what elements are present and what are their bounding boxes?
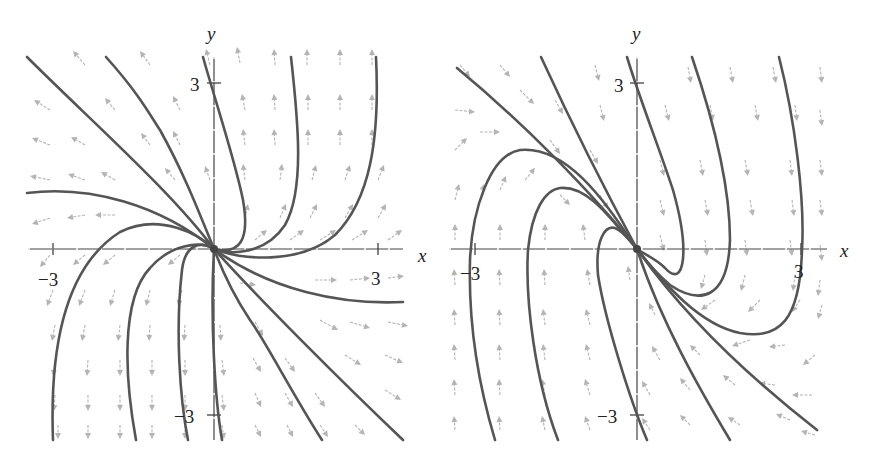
- vector-arrow: [525, 173, 531, 180]
- vector-arrow: [755, 105, 757, 115]
- arrowhead-icon: [701, 304, 708, 310]
- arrowhead-icon: [398, 274, 404, 280]
- vector-arrow: [584, 230, 585, 240]
- arrowhead-icon: [728, 417, 735, 423]
- arrowhead-icon: [497, 224, 503, 230]
- arrowhead-icon: [660, 209, 666, 216]
- arrowhead-icon: [241, 129, 247, 135]
- vector-arrow: [53, 325, 55, 335]
- trajectory-curve: [627, 57, 683, 274]
- vector-arrow: [544, 275, 545, 285]
- vector-arrow: [78, 255, 85, 261]
- vector-arrow: [119, 325, 120, 335]
- arrowhead-icon: [504, 70, 510, 77]
- vector-arrow: [792, 200, 793, 210]
- arrowhead-icon: [754, 115, 760, 121]
- arrowhead-icon: [541, 344, 547, 350]
- arrowhead-icon: [319, 400, 325, 407]
- vector-arrow: [54, 395, 55, 405]
- vector-arrow: [244, 135, 245, 145]
- arrowhead-icon: [642, 418, 648, 425]
- arrowhead-icon: [803, 359, 810, 365]
- vector-arrow: [500, 182, 504, 190]
- phase-portrait-figure: x y −3 3 3 −3 x y −3 3 3 −3: [0, 0, 878, 466]
- arrowhead-icon: [117, 433, 123, 439]
- vector-arrow: [550, 140, 557, 149]
- arrowhead-icon: [451, 379, 457, 385]
- y-tick-label-neg3: −3: [597, 406, 617, 427]
- vector-arrow: [222, 360, 223, 370]
- arrowhead-icon: [595, 74, 601, 81]
- arrowhead-icon: [30, 174, 36, 180]
- trajectory-curve: [457, 68, 637, 249]
- vector-arrow: [454, 385, 455, 395]
- arrowhead-icon: [451, 269, 457, 275]
- arrowhead-icon: [312, 165, 318, 172]
- vector-arrow: [310, 209, 314, 218]
- arrowhead-icon: [496, 379, 502, 385]
- arrowhead-icon: [149, 433, 155, 439]
- arrowhead-icon: [168, 259, 175, 265]
- arrowhead-icon: [85, 433, 91, 439]
- vector-arrow: [73, 215, 85, 217]
- arrowhead-icon: [788, 170, 794, 176]
- axis-labels: x y −3 3 3 −3: [460, 23, 849, 427]
- vector-arrow: [694, 349, 700, 355]
- vector-arrow: [555, 100, 560, 109]
- arrowhead-icon: [816, 290, 822, 296]
- vector-arrow: [773, 67, 775, 77]
- arrowhead-icon: [364, 276, 370, 282]
- vector-arrow: [745, 160, 747, 170]
- arrowhead-icon: [271, 129, 277, 135]
- vector-arrow: [819, 280, 820, 290]
- arrowhead-icon: [240, 94, 246, 100]
- arrowhead-icon: [204, 166, 210, 173]
- vector-arrow: [733, 420, 740, 425]
- arrowhead-icon: [700, 282, 706, 289]
- vector-arrow: [790, 160, 791, 170]
- vector-arrow: [388, 322, 402, 325]
- arrowhead-icon: [32, 219, 39, 225]
- vector-arrow: [820, 160, 821, 170]
- vector-arrow: [706, 300, 715, 307]
- y-tick-label-3: 3: [190, 74, 200, 95]
- vector-arrow: [728, 379, 735, 385]
- arrowhead-icon: [140, 51, 146, 58]
- arrowhead-icon: [704, 210, 710, 216]
- arrowhead-icon: [363, 323, 370, 329]
- trajectory-curve: [637, 57, 803, 334]
- x-tick-label-3: 3: [371, 268, 381, 289]
- vector-arrow: [455, 190, 458, 200]
- arrowhead-icon: [818, 120, 824, 126]
- arrowhead-icon: [818, 210, 824, 216]
- arrowhead-icon: [322, 430, 328, 437]
- vector-arrow: [587, 385, 590, 395]
- arrowhead-icon: [205, 49, 211, 56]
- arrowhead-icon: [729, 77, 735, 83]
- vector-arrow: [345, 171, 348, 180]
- vector-arrow: [730, 67, 732, 77]
- arrowhead-icon: [116, 335, 122, 341]
- arrowhead-icon: [626, 266, 632, 272]
- arrowhead-icon: [660, 244, 666, 251]
- y-axis-label: y: [630, 23, 641, 44]
- vector-arrow: [455, 142, 463, 150]
- vector-arrow: [388, 277, 398, 278]
- vector-arrow: [143, 56, 150, 65]
- vector-arrow: [660, 200, 663, 210]
- vector-arrow: [544, 315, 545, 325]
- arrowhead-icon: [337, 49, 343, 55]
- arrowhead-icon: [235, 47, 241, 53]
- vector-arrow: [39, 103, 50, 110]
- vector-arrow: [320, 425, 325, 432]
- vector-arrow: [455, 110, 469, 111]
- vector-arrow: [388, 233, 397, 240]
- vector-arrow: [820, 245, 821, 255]
- arrowhead-icon: [297, 230, 304, 236]
- x-tick-label-3: 3: [794, 261, 804, 282]
- arrowhead-icon: [220, 370, 226, 376]
- vector-arrow: [280, 210, 284, 218]
- arrowhead-icon: [218, 335, 224, 341]
- arrowhead-icon: [80, 335, 86, 341]
- vector-arrow: [684, 419, 690, 425]
